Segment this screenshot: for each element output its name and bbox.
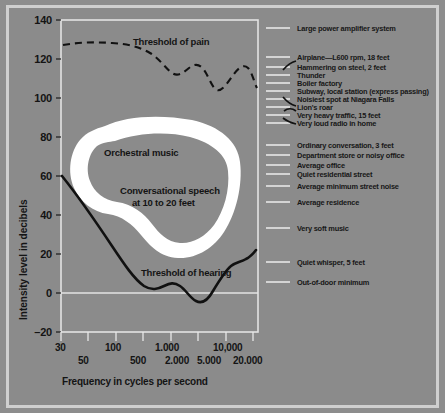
threshold-of-hearing-label: Threshold of hearing — [141, 268, 231, 278]
y-tick-label: –20 — [20, 327, 52, 338]
reference-label: Quiet residential street — [297, 171, 372, 178]
y-axis-title: Intensity level in decibels — [18, 199, 29, 320]
x-axis-ticks — [61, 332, 253, 341]
y-tick-label: 80 — [26, 132, 52, 143]
x-tick-label: 500 — [130, 356, 146, 366]
x-tick-label: 10,000 — [213, 343, 242, 353]
reference-label: Large power amplifier system — [297, 25, 396, 32]
conversational-speech-label-line1: Conversational speech — [120, 186, 220, 196]
reference-label: Department store or noisy office — [297, 152, 404, 159]
reference-label: Airplane—L600 rpm, 18 feet — [297, 54, 389, 61]
x-tick-label: 5.000 — [197, 356, 221, 366]
y-tick-label: 140 — [26, 15, 52, 26]
reference-label: Very loud radio in home — [297, 120, 376, 127]
reference-label: Ordinary conversation, 3 feet — [297, 142, 393, 149]
reference-label: Out-of-door minimum — [297, 279, 369, 286]
conversational-speech-label-line2: at 10 to 20 feet — [132, 198, 195, 208]
x-tick-label: 30 — [55, 343, 66, 353]
x-axis-title: Frequency in cycles per second — [62, 377, 208, 387]
x-tick-label: 20.000 — [233, 356, 262, 366]
reference-label: Average minimum street noise — [297, 183, 399, 190]
x-tick-label: 100 — [105, 343, 121, 353]
threshold-of-pain-curve — [63, 42, 257, 90]
figure-canvas: 140 120 100 80 60 40 20 0 –20 Intensity … — [0, 0, 445, 413]
y-tick-label: 20 — [26, 249, 52, 260]
y-tick-label: 100 — [26, 93, 52, 104]
y-tick-label: 0 — [26, 288, 52, 299]
y-tick-label: 120 — [26, 54, 52, 65]
y-tick-label: 60 — [26, 171, 52, 182]
threshold-of-pain-label: Threshold of pain — [133, 37, 209, 47]
reference-label: Very soft music — [297, 225, 349, 232]
x-tick-label: 2.000 — [165, 356, 189, 366]
x-tick-label: 50 — [78, 356, 89, 366]
reference-label: Quiet whisper, 5 feet — [297, 259, 365, 266]
reference-label: Average office — [297, 162, 345, 169]
reference-label: Average residence — [297, 199, 359, 206]
x-tick-label: 1.000 — [155, 343, 179, 353]
orchestral-music-label: Orchestral music — [104, 148, 178, 158]
y-tick-label: 40 — [26, 210, 52, 221]
